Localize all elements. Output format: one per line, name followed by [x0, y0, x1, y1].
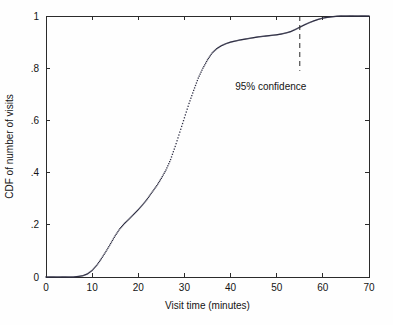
x-tick-label: 40 — [225, 282, 237, 293]
data-point — [207, 59, 208, 60]
data-point — [368, 15, 369, 16]
data-point — [175, 143, 176, 144]
data-point — [187, 109, 188, 110]
data-point — [156, 185, 157, 186]
data-point — [149, 195, 150, 196]
data-point — [176, 140, 177, 141]
y-axis-title: CDF of number of visits — [4, 94, 15, 198]
data-point — [194, 87, 195, 88]
data-point — [202, 68, 203, 69]
data-point — [192, 92, 193, 93]
data-point — [143, 203, 144, 204]
data-point — [210, 55, 211, 56]
data-point — [105, 251, 106, 252]
data-point — [184, 117, 185, 118]
data-point — [198, 77, 199, 78]
data-point — [167, 165, 168, 166]
data-point — [203, 66, 204, 67]
data-point — [199, 74, 200, 75]
chart-figure: 0102030405060700.2.4.6.81Visit time (min… — [0, 0, 393, 325]
data-point — [163, 173, 164, 174]
data-point — [147, 198, 148, 199]
x-tick-label: 30 — [179, 282, 191, 293]
data-point — [116, 232, 117, 233]
data-point — [209, 56, 210, 57]
data-point — [110, 243, 111, 244]
data-point — [96, 265, 97, 266]
data-point — [188, 103, 189, 104]
data-point — [161, 178, 162, 179]
data-point — [115, 234, 116, 235]
data-point — [142, 204, 143, 205]
x-tick-label: 60 — [317, 282, 329, 293]
data-point — [152, 190, 153, 191]
data-point — [170, 159, 171, 160]
y-tick-label: 1 — [33, 11, 39, 22]
data-point — [144, 202, 145, 203]
data-point — [154, 188, 155, 189]
data-point — [157, 184, 158, 185]
data-point — [162, 176, 163, 177]
data-point — [155, 186, 156, 187]
data-point — [148, 197, 149, 198]
data-point — [174, 148, 175, 149]
data-point — [165, 169, 166, 170]
data-point — [189, 100, 190, 101]
data-series-dots — [45, 15, 369, 277]
data-point — [159, 181, 160, 182]
data-point — [109, 245, 110, 246]
x-axis-title: Visit time (minutes) — [165, 300, 250, 311]
data-point — [103, 255, 104, 256]
data-point — [160, 179, 161, 180]
data-point — [114, 237, 115, 238]
data-point — [150, 194, 151, 195]
data-point — [195, 85, 196, 86]
data-point — [205, 63, 206, 64]
data-point — [115, 235, 116, 236]
data-point — [118, 229, 119, 230]
data-point — [175, 146, 176, 147]
data-point — [181, 126, 182, 127]
data-point — [193, 90, 194, 91]
x-tick-label: 20 — [133, 282, 145, 293]
data-point — [177, 137, 178, 138]
data-point — [211, 54, 212, 55]
confidence-annotation-label: 95% confidence — [235, 81, 307, 92]
data-point — [153, 189, 154, 190]
data-point — [199, 75, 200, 76]
data-point — [98, 262, 99, 263]
y-tick-label: .6 — [31, 115, 40, 126]
data-point — [158, 182, 159, 183]
data-point — [102, 257, 103, 258]
data-point — [180, 129, 181, 130]
data-point — [106, 249, 107, 250]
data-point — [196, 82, 197, 83]
x-tick-label: 0 — [43, 282, 49, 293]
data-point — [179, 131, 180, 132]
data-point — [146, 199, 147, 200]
data-point — [97, 263, 98, 264]
data-point — [145, 200, 146, 201]
data-point — [103, 254, 104, 255]
data-point — [168, 163, 169, 164]
data-point — [104, 252, 105, 253]
data-point — [171, 156, 172, 157]
data-point — [166, 167, 167, 168]
data-point — [164, 171, 165, 172]
data-point — [172, 154, 173, 155]
data-point — [107, 248, 108, 249]
data-point — [163, 174, 164, 175]
data-point — [191, 95, 192, 96]
data-point — [185, 114, 186, 115]
data-point — [113, 238, 114, 239]
y-tick-label: .4 — [31, 167, 40, 178]
data-point — [206, 61, 207, 62]
data-point — [151, 192, 152, 193]
data-point — [173, 151, 174, 152]
chart-plot-area: 0102030405060700.2.4.6.81Visit time (min… — [0, 0, 393, 325]
data-point — [151, 193, 152, 194]
data-point — [99, 261, 100, 262]
y-tick-label: 0 — [33, 272, 39, 283]
data-point — [101, 258, 102, 259]
data-point — [183, 120, 184, 121]
